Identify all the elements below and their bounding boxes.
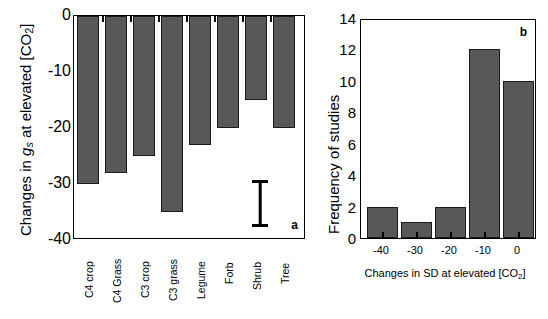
panel-b-x-axis-title: Changes in SD at elevated [CO2]: [340, 268, 548, 281]
bar-forb: [217, 16, 239, 128]
hist-bar-0: [503, 81, 534, 238]
hist-bar-neg10: [469, 49, 500, 238]
panel-b-xtick-mark-neg20: [450, 232, 452, 238]
panel-a-category-label-legume: Legume: [196, 261, 207, 299]
panel-b-ytick-label-14: 14: [324, 11, 356, 26]
panel-b-ytick-label-8: 8: [324, 105, 356, 120]
panel-b-ytick-label-2: 2: [324, 200, 356, 215]
y-axis-title-italic-g: g: [17, 148, 34, 156]
bar-tree: [273, 16, 295, 128]
panel-b-plot-area: b: [360, 19, 536, 239]
panel-b-xtick-mark-0: [518, 232, 520, 238]
panel-b-xtick-label-0: 0: [497, 245, 537, 256]
panel-a-category-label-tree: Tree: [280, 263, 291, 284]
panel-b-letter: b: [520, 26, 527, 38]
bar-c3-crop: [133, 16, 155, 156]
panel-a-category-label-c4-grass: C4 Grass: [112, 259, 123, 303]
panel-a-category-label-shrub: Shrub: [252, 262, 263, 290]
panel-a-category-label-forb: Forb: [224, 262, 235, 284]
panel-b-xtick-mark-neg10: [484, 232, 486, 238]
panel-a-bars-layer: [74, 16, 304, 238]
panel-b-ytick-label-0: 0: [324, 231, 356, 246]
panel-b-ytick-label-10: 10: [324, 74, 356, 89]
standard-error-indicator: [252, 180, 268, 227]
y-axis-title-pre: Changes in: [17, 156, 34, 236]
panel-a-xtick-mark-1: [102, 16, 104, 22]
panel-a-letter: a: [291, 219, 298, 231]
panel-a-xtick-mark-5: [214, 16, 216, 22]
panel-b-ytick-label-6: 6: [324, 137, 356, 152]
error-bar-bottom-cap: [252, 224, 268, 227]
bar-c4-crop: [77, 16, 99, 184]
panel-a-ytick-label-neg10: -10: [31, 63, 71, 79]
panel-a-xtick-mark-6: [242, 16, 244, 22]
x-axis-title-pre: Changes in SD at elevated [CO: [365, 267, 518, 279]
panel-a-category-label-c3-grass: C3 grass: [168, 259, 179, 301]
panel-a-ytick-label-neg40: -40: [31, 231, 71, 247]
panel-a-bar-chart: Changes in gs at elevated [CO2] 0 -10 -2…: [0, 0, 320, 319]
panel-b-xtick-mark-neg30: [416, 232, 418, 238]
panel-b-histogram: Frequency of studies 14 12 10 8 6 4 2 0: [320, 0, 548, 319]
panel-b-xtick-mark-neg40: [382, 232, 384, 238]
bar-legume: [189, 16, 211, 145]
y-axis-title-subscript-s: s: [23, 142, 35, 147]
bar-c4-grass: [105, 16, 127, 173]
panel-a-xtick-mark-3: [158, 16, 160, 22]
panel-a-plot-area: a: [73, 15, 305, 239]
figure-container: Changes in gs at elevated [CO2] 0 -10 -2…: [0, 0, 548, 319]
panel-a-category-label-c4-crop: C4 crop: [84, 261, 95, 298]
panel-a-ytick-label-neg30: -30: [31, 175, 71, 191]
panel-b-ytick-label-4: 4: [324, 168, 356, 183]
panel-b-bars-layer: [361, 20, 535, 238]
panel-a-ytick-label-0: 0: [31, 7, 71, 23]
x-axis-title-close: ]: [522, 267, 525, 279]
panel-a-xtick-mark-7: [270, 16, 272, 22]
error-bar-stem: [259, 180, 262, 227]
panel-a-ytick-label-neg20: -20: [31, 119, 71, 135]
bar-shrub: [245, 16, 267, 100]
panel-a-category-label-c3-crop: C3 crop: [140, 261, 151, 298]
panel-a-xtick-mark-4: [186, 16, 188, 22]
y-axis-title-sub-2: 2: [23, 28, 35, 34]
y-axis-title-close: ]: [17, 24, 34, 28]
panel-b-ytick-label-12: 12: [324, 42, 356, 57]
panel-a-xtick-mark-2: [130, 16, 132, 22]
bar-c3-grass: [161, 16, 183, 212]
